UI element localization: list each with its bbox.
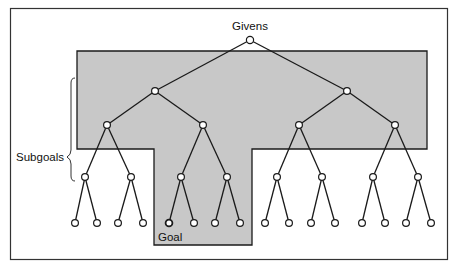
node-d3 [128,174,135,181]
leaf-node [403,220,410,227]
node-d2 [392,122,399,129]
leaf-node [262,220,269,227]
leaf-node [72,220,79,227]
leaf-node [237,220,244,227]
diagram-canvas: Givens Subgoals Goal [0,0,453,268]
node-d1 [152,88,159,95]
node-d3 [370,174,377,181]
root-node [246,36,253,43]
node-d3 [415,174,422,181]
goal-node [166,220,173,227]
node-d2 [296,122,303,129]
node-d3 [82,174,89,181]
node-d3 [319,174,326,181]
leaf-node [191,220,198,227]
node-d2 [104,122,111,129]
leaf-node [428,220,435,227]
node-d3 [178,174,185,181]
leaf-node [94,220,101,227]
leaf-node [115,220,122,227]
subgoals-brace [67,78,75,181]
leaf-node [286,220,293,227]
node-d1 [344,88,351,95]
leaf-node [382,220,389,227]
node-d2 [200,122,207,129]
leaf-node [332,220,339,227]
shaded-search-region [77,51,427,245]
goal-label: Goal [158,231,182,243]
leaf-node [140,220,147,227]
leaf-node [308,220,315,227]
leaf-node [359,220,366,227]
node-d3 [274,174,281,181]
subgoals-label: Subgoals [16,151,64,163]
node-d3 [224,174,231,181]
givens-label: Givens [232,20,268,32]
leaf-node [212,220,219,227]
